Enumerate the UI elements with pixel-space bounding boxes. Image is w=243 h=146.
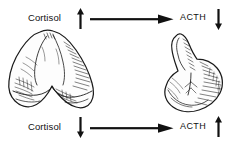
- arrow-down-icon: [214, 8, 223, 32]
- arrow-right-icon: [90, 14, 174, 25]
- bottom-row-source-label: Cortisol: [28, 122, 61, 132]
- arrow-up-icon: [76, 6, 85, 30]
- arrow-up-icon: [214, 114, 223, 138]
- pituitary-gland-illustration: [158, 30, 236, 115]
- bottom-row-target-label: ACTH: [180, 122, 206, 131]
- arrow-right-icon: [90, 123, 174, 134]
- top-row-target-label: ACTH: [180, 13, 206, 22]
- arrow-down-icon: [76, 116, 85, 140]
- feedback-diagram: Cortisol ACTH: [0, 0, 243, 146]
- adrenal-gland-illustration: [6, 29, 96, 115]
- top-row-source-label: Cortisol: [28, 13, 61, 23]
